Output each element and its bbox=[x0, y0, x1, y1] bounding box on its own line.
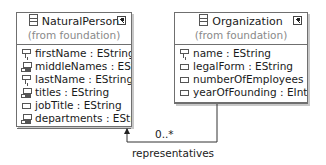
association-multiplicity: 0..* bbox=[155, 128, 174, 140]
navigation-arrowhead-icon bbox=[124, 128, 130, 134]
association-role: representatives bbox=[132, 147, 214, 159]
association-connector[interactable] bbox=[0, 0, 326, 165]
